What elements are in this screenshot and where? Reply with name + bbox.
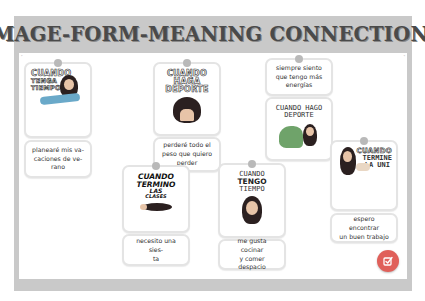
resize-handle-top-right[interactable]: ⌝ (403, 54, 405, 59)
pin-icon (295, 55, 303, 63)
woman-lying-down-sticker (136, 202, 176, 212)
resize-handle-top-left[interactable]: ⌜ (21, 54, 23, 59)
pin-icon (54, 59, 62, 67)
pin-icon (152, 162, 160, 170)
meaning-card-tengo-tiempo[interactable]: me gusta cocinar y comer despacio (218, 239, 286, 270)
woman-head-peeking-sticker (169, 97, 205, 123)
pin-icon (183, 59, 191, 67)
woman-portrait-sparkles-sticker (237, 196, 267, 224)
pin-icon (360, 137, 368, 145)
woman-on-beach-chair-sticker (30, 75, 86, 105)
meaning-card-termino-las-clases[interactable]: necesito una sies- ta (122, 234, 190, 266)
woman-celebrating-sticker (336, 147, 392, 177)
image-card-haga-deporte[interactable]: CUANDO HAGA DEPORTE (153, 62, 221, 136)
pin-icon (248, 160, 256, 168)
meaning-card-tenga-tiempo[interactable]: planearé mis va- caciones de ve- rano (24, 140, 92, 178)
dinosaur-and-woman-sticker (277, 122, 321, 148)
check-answers-button[interactable] (377, 250, 399, 272)
image-card-hago-deporte[interactable]: CUANDO HAGO DEPORTE (265, 97, 333, 161)
page-title: IMAGE-FORM-MEANING CONNECTIONS (0, 23, 425, 46)
image-card-termino-las-clases[interactable]: CUANDO TERMINO LAS CLASES (122, 165, 190, 233)
image-card-tengo-tiempo[interactable]: CUANDO TENGO TIEMPO (218, 163, 286, 238)
title-band: IMAGE-FORM-MEANING CONNECTIONS (14, 16, 412, 53)
image-card-termine-la-uni[interactable]: CUANDO TERMINE LA UNI (330, 140, 398, 211)
meaning-card-termine-la-uni[interactable]: espero encontrar un buen trabajo (330, 213, 398, 243)
check-square-icon (383, 256, 393, 266)
meaning-card-hago-deporte[interactable]: siempre siento que tengo más energías (265, 58, 333, 96)
image-card-tenga-tiempo[interactable]: CUANDO TENGA TIEMPO (24, 62, 92, 138)
